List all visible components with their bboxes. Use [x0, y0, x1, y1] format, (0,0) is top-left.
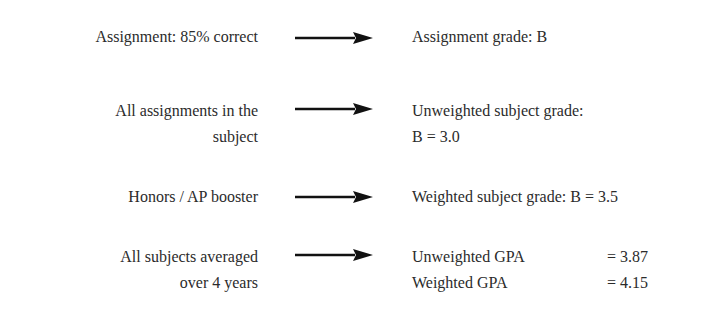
right-arrow-icon [295, 32, 373, 44]
right-arrow-icon [295, 249, 373, 261]
gpa-value: = 3.87 [607, 244, 648, 270]
output-label: Unweighted subject grade: B = 3.0 [412, 98, 584, 150]
output-line: Assignment grade: B [412, 24, 547, 50]
right-arrow-icon [295, 103, 373, 115]
input-line: Honors / AP booster [128, 184, 258, 210]
input-label: All subjects averaged over 4 years [120, 244, 258, 296]
gpa-label: Unweighted GPA [412, 244, 607, 270]
output-line: Weighted subject grade: B = 3.5 [412, 184, 618, 210]
gpa-unweighted: Unweighted GPA = 3.87 [412, 244, 648, 270]
input-label: All assignments in the subject [115, 98, 258, 150]
input-label: Assignment: 85% correct [95, 24, 258, 50]
input-line: subject [115, 124, 258, 150]
gpa-value: = 4.15 [607, 270, 648, 296]
output-line: Unweighted subject grade: [412, 98, 584, 124]
input-line: Assignment: 85% correct [95, 24, 258, 50]
output-label: Assignment grade: B [412, 24, 547, 50]
output-line: B = 3.0 [412, 124, 584, 150]
right-arrow-icon [295, 191, 373, 203]
input-label: Honors / AP booster [128, 184, 258, 210]
gpa-weighted: Weighted GPA = 4.15 [412, 270, 648, 296]
gpa-output: Unweighted GPA = 3.87 Weighted GPA = 4.1… [412, 244, 648, 296]
input-line: All subjects averaged [120, 244, 258, 270]
gpa-label: Weighted GPA [412, 270, 607, 296]
input-line: All assignments in the [115, 98, 258, 124]
output-label: Weighted subject grade: B = 3.5 [412, 184, 618, 210]
input-line: over 4 years [120, 270, 258, 296]
